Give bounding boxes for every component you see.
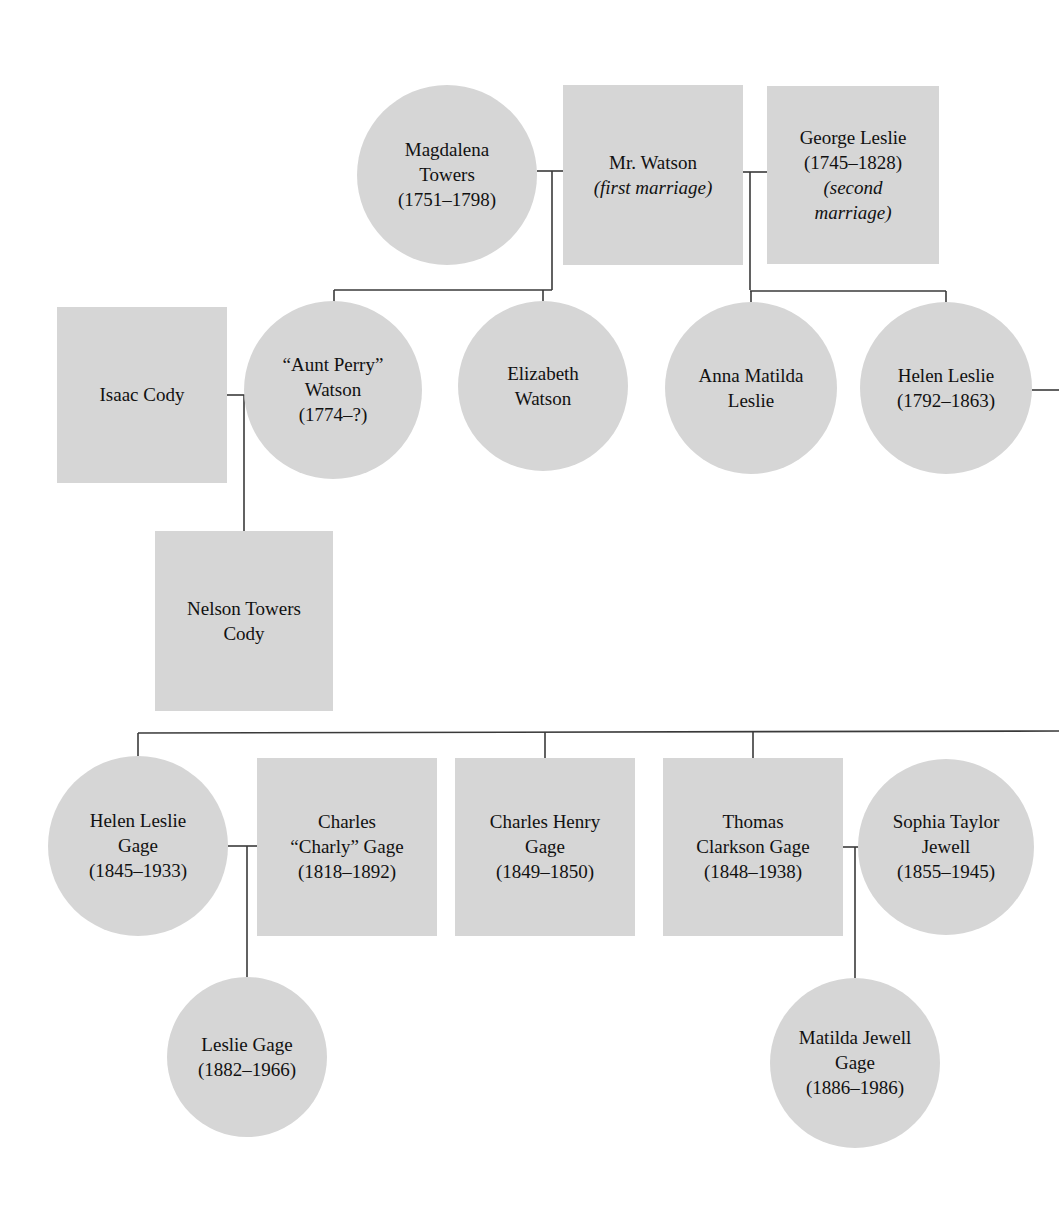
node-shape-circle [458, 301, 628, 471]
node-label-line: Towers [419, 164, 475, 185]
node-label-line: (1886–1986) [806, 1077, 904, 1099]
node-label-line: Leslie Gage [201, 1034, 292, 1055]
node-label-line: (1751–1798) [398, 189, 496, 211]
node-shape-rect [155, 531, 333, 711]
node-label-line: Charles Henry [490, 811, 601, 832]
node-shape-circle [167, 977, 327, 1137]
node-label-line: (second [823, 177, 883, 199]
node-label-line: Charles [318, 811, 376, 832]
node-label-line: (1792–1863) [897, 390, 995, 412]
node-leslie-gage[interactable]: Leslie Gage(1882–1966) [167, 977, 327, 1137]
family-tree-diagram: MagdalenaTowers(1751–1798)Mr. Watson(fir… [0, 0, 1059, 1221]
node-label-line: Matilda Jewell [799, 1027, 911, 1048]
node-label-line: Watson [515, 388, 572, 409]
node-shape-circle [860, 302, 1032, 474]
node-anna-matilda-leslie[interactable]: Anna MatildaLeslie [665, 302, 837, 474]
node-label-line: Helen Leslie [898, 365, 995, 386]
node-label-line: Helen Leslie [90, 810, 187, 831]
node-elizabeth-watson[interactable]: ElizabethWatson [458, 301, 628, 471]
node-george-leslie[interactable]: George Leslie(1745–1828)(secondmarriage) [767, 86, 939, 264]
node-label-line: Cody [223, 623, 265, 644]
node-charles-charly-gage[interactable]: Charles“Charly” Gage(1818–1892) [257, 758, 437, 936]
node-label-line: Magdalena [405, 139, 490, 160]
node-aunt-perry-watson[interactable]: “Aunt Perry”Watson(1774–?) [244, 301, 422, 479]
node-nelson-towers-cody[interactable]: Nelson TowersCody [155, 531, 333, 711]
node-mr-watson[interactable]: Mr. Watson(first marriage) [563, 85, 743, 265]
node-magdalena-towers[interactable]: MagdalenaTowers(1751–1798) [357, 85, 537, 265]
node-label-line: (1818–1892) [298, 861, 396, 883]
node-thomas-clarkson-gage[interactable]: ThomasClarkson Gage(1848–1938) [663, 758, 843, 936]
node-label-line: (1848–1938) [704, 861, 802, 883]
node-label-line: Anna Matilda [698, 365, 804, 386]
node-label-line: “Aunt Perry” [283, 354, 384, 375]
node-label-line: (1845–1933) [89, 860, 187, 882]
node-label-line: George Leslie [800, 127, 907, 148]
node-label-line: Jewell [922, 836, 971, 857]
node-label-isaac-cody: Isaac Cody [100, 384, 185, 405]
family-tree-canvas: MagdalenaTowers(1751–1798)Mr. Watson(fir… [0, 0, 1059, 1221]
node-label-line: Gage [835, 1052, 875, 1073]
node-matilda-jewell-gage[interactable]: Matilda JewellGage(1886–1986) [770, 978, 940, 1148]
node-shape-rect [563, 85, 743, 265]
node-label-line: (1745–1828) [804, 152, 902, 174]
node-layer: MagdalenaTowers(1751–1798)Mr. Watson(fir… [48, 85, 1034, 1148]
node-label-line: Elizabeth [507, 363, 579, 384]
node-label-line: marriage) [814, 202, 891, 224]
node-shape-rect [767, 86, 939, 264]
node-helen-leslie-gage[interactable]: Helen LeslieGage(1845–1933) [48, 756, 228, 936]
node-label-line: (1882–1966) [198, 1059, 296, 1081]
node-label-line: Thomas [722, 811, 783, 832]
node-charles-henry-gage[interactable]: Charles HenryGage(1849–1850) [455, 758, 635, 936]
node-label-line: Leslie [728, 390, 774, 411]
node-label-line: Watson [305, 379, 362, 400]
node-label-line: (first marriage) [594, 177, 713, 199]
node-sophia-taylor-jewell[interactable]: Sophia TaylorJewell(1855–1945) [858, 759, 1034, 935]
node-label-line: Mr. Watson [609, 152, 697, 173]
node-label-line: “Charly” Gage [290, 836, 403, 857]
node-shape-circle [665, 302, 837, 474]
node-label-line: Isaac Cody [100, 384, 185, 405]
node-label-line: (1855–1945) [897, 861, 995, 883]
node-label-line: (1774–?) [299, 404, 368, 426]
node-label-line: Gage [118, 835, 158, 856]
connector-gage-children-bar [138, 731, 1059, 733]
node-label-line: Sophia Taylor [893, 811, 1000, 832]
node-label-line: Clarkson Gage [696, 836, 809, 857]
node-isaac-cody[interactable]: Isaac Cody [57, 307, 227, 483]
node-label-line: (1849–1850) [496, 861, 594, 883]
node-label-line: Nelson Towers [187, 598, 301, 619]
node-label-line: Gage [525, 836, 565, 857]
node-helen-leslie[interactable]: Helen Leslie(1792–1863) [860, 302, 1032, 474]
